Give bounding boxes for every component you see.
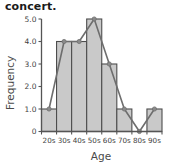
y-axis-ticks: 01.02.03.04.05.0	[25, 15, 42, 137]
histogram-frequency-polygon-plot: 01.02.03.04.05.0 20s30s40s50s60s70s80s90…	[0, 0, 169, 166]
bar-40s	[72, 42, 87, 132]
y-tick-label: 5.0	[25, 15, 37, 24]
data-point-60s	[107, 62, 111, 66]
y-tick-label: 4.0	[25, 37, 37, 46]
x-tick-label-40s: 40s	[73, 136, 86, 145]
data-point-20s	[47, 107, 51, 111]
data-point-50s	[92, 17, 96, 21]
data-point-30s	[62, 39, 66, 43]
chart-figure: concert. 01.02.03.04.05.0 20s30s40s50s60…	[0, 0, 169, 166]
bar-70s	[117, 109, 132, 132]
y-tick-label: 1.0	[25, 105, 37, 114]
x-tick-label-80s: 80s	[133, 136, 146, 145]
data-point-90s	[152, 107, 156, 111]
x-tick-label-20s: 20s	[43, 136, 56, 145]
x-tick-label-30s: 30s	[58, 136, 71, 145]
x-tick-label-50s: 50s	[88, 136, 101, 145]
bar-20s	[42, 109, 57, 132]
x-tick-label-90s: 90s	[148, 136, 161, 145]
data-point-40s	[77, 39, 81, 43]
y-tick-label: 2.0	[25, 82, 37, 91]
bar-90s	[147, 109, 162, 132]
bar-30s	[57, 42, 72, 132]
x-tick-label-70s: 70s	[118, 136, 131, 145]
data-point-70s	[122, 107, 126, 111]
x-tick-label-60s: 60s	[103, 136, 116, 145]
x-axis-ticks: 20s30s40s50s60s70s80s90s	[42, 132, 163, 145]
y-axis-title: Frequency	[4, 56, 16, 110]
y-tick-label: 3.0	[25, 60, 37, 69]
bars-group	[42, 19, 163, 132]
bar-60s	[102, 64, 117, 132]
x-axis-title: Age	[91, 150, 111, 162]
y-tick-label: 0	[32, 127, 37, 136]
